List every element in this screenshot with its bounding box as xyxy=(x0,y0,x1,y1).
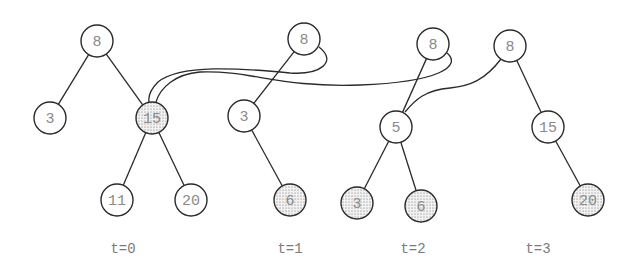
tree-node-t3-20: 20 xyxy=(572,184,604,216)
edge-t0-8-t0-15 xyxy=(106,54,142,105)
version-label-0: t=0 xyxy=(110,241,135,257)
node-key-label: 3 xyxy=(239,109,248,126)
tree-node-t0-11: 11 xyxy=(101,184,133,216)
node-key-label: 8 xyxy=(299,32,308,49)
shared-links xyxy=(149,47,501,112)
node-key-label: 3 xyxy=(352,196,361,213)
tree-node-t2-6: 6 xyxy=(405,190,437,222)
edge-t2-8-t2-5 xyxy=(403,59,427,113)
node-key-label: 8 xyxy=(505,39,514,56)
tree-node-t0-3: 3 xyxy=(34,102,66,134)
tree-node-t3-8: 8 xyxy=(494,30,526,62)
tree-node-t3-15: 15 xyxy=(532,111,564,143)
node-key-label: 15 xyxy=(539,120,557,137)
edge-t3-8-t3-15 xyxy=(517,60,541,112)
persistent-tree-diagram: 83151120836853681520 t=0t=1t=2t=3 xyxy=(0,0,638,275)
node-key-label: 6 xyxy=(416,199,425,216)
tree-node-t1-6: 6 xyxy=(274,184,306,216)
tree-node-t0-8: 8 xyxy=(81,25,113,57)
tree-node-t0-20: 20 xyxy=(175,184,207,216)
node-key-label: 6 xyxy=(285,193,294,210)
node-key-label: 8 xyxy=(92,34,101,51)
tree-node-t2-8: 8 xyxy=(417,28,449,60)
tree-node-t1-3: 3 xyxy=(228,100,260,132)
tree-nodes: 83151120836853681520 xyxy=(34,23,604,222)
edge-t3-15-t3-20 xyxy=(556,141,581,186)
node-key-label: 11 xyxy=(108,193,126,210)
node-key-label: 3 xyxy=(45,111,54,128)
edge-t0-8-t0-3 xyxy=(58,55,88,105)
shared-pointer-curve-t2-8-to-t0-15 xyxy=(156,53,451,102)
version-label-3: t=3 xyxy=(525,241,550,257)
edge-t2-5-t2-3 xyxy=(364,141,388,189)
tree-node-t2-3: 3 xyxy=(341,187,373,219)
tree-node-t2-5: 5 xyxy=(380,111,412,143)
edge-t1-3-t1-6 xyxy=(252,130,283,186)
node-key-label: 5 xyxy=(391,120,400,137)
shared-pointer-curve-t3-8-to-t2-5 xyxy=(405,59,501,112)
node-key-label: 8 xyxy=(428,37,437,54)
node-key-label: 20 xyxy=(182,193,200,210)
tree-node-t0-15: 15 xyxy=(136,102,168,134)
node-key-label: 20 xyxy=(579,193,597,210)
tree-node-t1-8: 8 xyxy=(288,23,320,55)
version-label-1: t=1 xyxy=(277,241,302,257)
version-labels: t=0t=1t=2t=3 xyxy=(110,241,550,257)
version-label-2: t=2 xyxy=(400,241,425,257)
edge-t0-15-t0-11 xyxy=(123,133,145,186)
edge-t2-5-t2-6 xyxy=(401,142,416,190)
edge-t0-15-t0-20 xyxy=(159,132,184,185)
node-key-label: 15 xyxy=(143,111,161,128)
